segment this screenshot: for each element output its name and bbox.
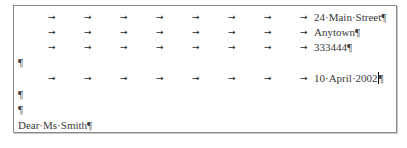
- paragraph-mark-icon: ¶: [381, 11, 386, 23]
- tab-mark-icon: →: [264, 40, 272, 55]
- tab-mark-icon: →: [300, 10, 308, 25]
- tab-mark-icon: →: [84, 71, 92, 86]
- tab-mark-icon: →: [120, 10, 128, 25]
- date-line[interactable]: → → → → → → → → 10·April·2002¶: [14, 71, 396, 86]
- paragraph-mark-icon: ¶: [18, 102, 23, 117]
- empty-paragraph[interactable]: ¶: [14, 55, 396, 70]
- tab-mark-icon: →: [228, 25, 236, 40]
- address-postcode-text: 333444¶: [314, 40, 352, 55]
- empty-paragraph[interactable]: ¶: [14, 87, 396, 102]
- document-page[interactable]: → → → → → → → → 24·Main·Street¶ → → → → …: [13, 5, 397, 133]
- tab-mark-icon: →: [264, 25, 272, 40]
- tab-mark-icon: →: [84, 10, 92, 25]
- tab-mark-icon: →: [300, 71, 308, 86]
- address-line-street[interactable]: → → → → → → → → 24·Main·Street¶: [14, 10, 396, 25]
- tab-mark-icon: →: [192, 25, 200, 40]
- tab-mark-icon: →: [156, 71, 164, 86]
- paragraph-mark-icon: ¶: [18, 87, 23, 102]
- tab-mark-icon: →: [48, 25, 56, 40]
- salutation-text: Dear·Ms·Smith¶: [18, 118, 92, 133]
- tab-mark-icon: →: [84, 40, 92, 55]
- paragraph-mark-icon: ¶: [87, 119, 92, 131]
- tab-mark-icon: →: [48, 71, 56, 86]
- address-town-text: Anytown¶: [314, 25, 360, 40]
- salutation-line[interactable]: Dear·Ms·Smith¶: [14, 118, 396, 133]
- tab-mark-icon: →: [300, 40, 308, 55]
- tab-mark-icon: →: [120, 40, 128, 55]
- paragraph-mark-icon: ¶: [379, 72, 384, 84]
- paragraph-mark-icon: ¶: [355, 26, 360, 38]
- tab-mark-icon: →: [156, 40, 164, 55]
- tab-mark-icon: →: [156, 25, 164, 40]
- tab-mark-icon: →: [228, 40, 236, 55]
- tab-mark-icon: →: [120, 71, 128, 86]
- paragraph-mark-icon: ¶: [347, 41, 352, 53]
- tab-mark-icon: →: [156, 10, 164, 25]
- address-line-town[interactable]: → → → → → → → → Anytown¶: [14, 25, 396, 40]
- tab-mark-icon: →: [264, 10, 272, 25]
- tab-mark-icon: →: [48, 40, 56, 55]
- date-text: 10·April·2002¶: [314, 71, 384, 86]
- tab-mark-icon: →: [228, 71, 236, 86]
- empty-paragraph[interactable]: ¶: [14, 102, 396, 117]
- paragraph-mark-icon: ¶: [18, 55, 23, 70]
- tab-mark-icon: →: [84, 25, 92, 40]
- tab-mark-icon: →: [228, 10, 236, 25]
- tab-mark-icon: →: [300, 25, 308, 40]
- tab-mark-icon: →: [192, 40, 200, 55]
- tab-mark-icon: →: [192, 10, 200, 25]
- tab-mark-icon: →: [120, 25, 128, 40]
- address-line-postcode[interactable]: → → → → → → → → 333444¶: [14, 40, 396, 55]
- tab-mark-icon: →: [192, 71, 200, 86]
- address-street-text: 24·Main·Street¶: [314, 10, 386, 25]
- tab-mark-icon: →: [264, 71, 272, 86]
- tab-mark-icon: →: [48, 10, 56, 25]
